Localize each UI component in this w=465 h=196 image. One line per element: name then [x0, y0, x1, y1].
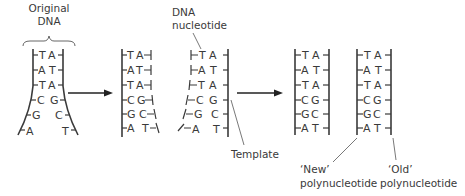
- base: A: [209, 49, 217, 62]
- base: A: [301, 64, 309, 77]
- base: T: [363, 49, 371, 62]
- original-dna-brace: [23, 36, 75, 46]
- new-pointer-line: [333, 138, 357, 162]
- base: A: [136, 79, 144, 92]
- arrow-icon: [237, 90, 283, 97]
- dna-nucleotide-label: DNA nucleotide: [172, 6, 227, 31]
- dna-replication-diagram: Original DNA T A A T T A C G G C A T: [0, 0, 465, 196]
- new-polynucleotide-label: ‘New’ polynucleotide: [300, 163, 377, 189]
- base: A: [312, 49, 320, 62]
- base: A: [192, 123, 200, 136]
- base: T: [38, 49, 46, 62]
- base: G: [194, 108, 203, 121]
- original-dna-label: Original DNA: [28, 2, 69, 27]
- base: C: [127, 94, 135, 107]
- base: A: [363, 64, 371, 77]
- base: G: [50, 94, 59, 107]
- base: C: [55, 109, 63, 122]
- base: T: [212, 123, 220, 136]
- base: T: [301, 79, 309, 92]
- base: T: [38, 79, 46, 92]
- base: G: [311, 94, 320, 107]
- svg-text:Original: Original: [28, 2, 69, 14]
- original-right-strand: [63, 49, 78, 135]
- base: A: [48, 49, 56, 62]
- base: A: [301, 122, 309, 135]
- base: C: [311, 108, 319, 121]
- base: T: [209, 64, 217, 77]
- base: C: [363, 94, 371, 107]
- svg-text:polynucleotide: polynucleotide: [380, 177, 457, 189]
- base: G: [209, 94, 218, 107]
- old-polynucleotide-label: ‘Old’ polynucleotide: [380, 163, 457, 189]
- base: T: [141, 122, 149, 135]
- svg-text:polynucleotide: polynucleotide: [300, 177, 377, 189]
- base: T: [126, 79, 134, 92]
- base: T: [373, 122, 381, 135]
- base: T: [374, 64, 382, 77]
- base: A: [127, 64, 135, 77]
- base: A: [363, 122, 371, 135]
- template-pointer-line: [231, 100, 244, 145]
- original-left-strand: [18, 49, 33, 135]
- base: A: [198, 64, 206, 77]
- base: T: [135, 64, 143, 77]
- base: A: [312, 79, 320, 92]
- base: G: [32, 109, 41, 122]
- base: C: [139, 108, 147, 121]
- daughter-molecule-2: T A A T T A C G G C A T: [357, 49, 391, 135]
- base: C: [196, 94, 204, 107]
- base: T: [126, 49, 134, 62]
- base: C: [373, 108, 381, 121]
- daughter-molecule-1: T A A T T A C G G C A T: [295, 49, 329, 135]
- base: T: [197, 79, 205, 92]
- template-label: Template: [230, 148, 279, 160]
- base: G: [137, 94, 146, 107]
- nucleotide-pointer-line: [193, 33, 201, 49]
- base: T: [61, 125, 69, 138]
- base: G: [363, 108, 372, 121]
- base: A: [127, 122, 135, 135]
- svg-text:DNA: DNA: [172, 6, 196, 18]
- base: T: [301, 49, 309, 62]
- unzipped-left-molecule: T A A T T A C G G C A T: [122, 49, 159, 137]
- base: G: [127, 108, 136, 121]
- base: A: [136, 49, 144, 62]
- base: G: [301, 108, 310, 121]
- base: C: [301, 94, 309, 107]
- svg-text:‘New’: ‘New’: [300, 163, 330, 175]
- arrow-icon: [68, 90, 113, 97]
- base: T: [363, 79, 371, 92]
- svg-text:DNA: DNA: [37, 15, 61, 27]
- base: T: [311, 122, 319, 135]
- base: A: [26, 125, 34, 138]
- unzipped-right-molecule: T A A T T A C G G C A T: [178, 49, 228, 137]
- base: T: [198, 49, 206, 62]
- base: C: [37, 94, 45, 107]
- base: T: [312, 64, 320, 77]
- base: G: [373, 94, 382, 107]
- base: A: [209, 79, 217, 92]
- base: A: [48, 79, 56, 92]
- svg-text:nucleotide: nucleotide: [172, 19, 227, 31]
- old-pointer-line: [393, 138, 396, 160]
- base: C: [211, 108, 219, 121]
- base: T: [48, 64, 56, 77]
- svg-text:‘Old’: ‘Old’: [388, 163, 413, 175]
- base: A: [38, 64, 46, 77]
- base: A: [374, 49, 382, 62]
- base: A: [374, 79, 382, 92]
